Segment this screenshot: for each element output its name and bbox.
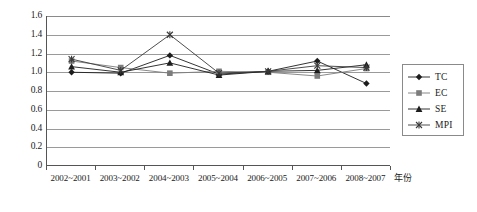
y-axis-tick-label: 0.8	[31, 86, 42, 96]
y-axis-tick-label: 0	[37, 161, 42, 171]
x-axis-tick-label: 2005~2004	[198, 172, 238, 184]
x-axis-tick-marks	[46, 166, 390, 170]
legend-marker-square-icon	[406, 86, 432, 100]
data-point-diamond	[167, 52, 173, 58]
legend-marker-cross-icon	[406, 118, 432, 132]
y-axis-tick-label: 0.4	[31, 124, 42, 134]
y-axis-tick-label: 1.6	[31, 11, 42, 21]
x-axis-tick	[292, 166, 293, 170]
x-axis-tick	[243, 166, 244, 170]
legend-item-se[interactable]: SE	[406, 101, 460, 117]
x-axis-tick	[341, 166, 342, 170]
legend-marker-triangle-icon	[406, 102, 432, 116]
x-axis-tick	[390, 166, 391, 170]
x-axis-tick-label: 2004~2003	[149, 172, 189, 184]
legend-item-mpi[interactable]: MPI	[406, 117, 460, 133]
legend-item-tc[interactable]: TC	[406, 69, 460, 85]
y-axis-tick-labels: 00.20.40.60.81.01.21.41.6	[0, 0, 46, 180]
data-point-cross	[118, 67, 124, 74]
legend-marker-diamond-icon	[406, 70, 432, 84]
data-point-square	[314, 73, 320, 79]
y-axis-tick-label: 0.6	[31, 105, 42, 115]
data-point-diamond	[363, 80, 369, 86]
x-axis-title: 年份	[394, 172, 412, 184]
y-axis-tick-label: 1.0	[31, 68, 42, 78]
data-point-diamond	[416, 74, 422, 80]
x-axis-tick-label: 2007~2006	[296, 172, 336, 184]
legend-label: EC	[432, 86, 448, 100]
data-point-square	[167, 70, 173, 76]
legend-item-ec[interactable]: EC	[406, 85, 460, 101]
data-point-diamond	[68, 69, 74, 75]
data-point-cross	[167, 31, 173, 38]
x-axis-tick	[193, 166, 194, 170]
chart-figure: 00.20.40.60.81.01.21.41.6 2002~20012003~…	[0, 0, 477, 212]
series-layer	[47, 16, 391, 166]
data-point-triangle	[68, 63, 75, 69]
plot-area	[46, 16, 390, 166]
y-axis-tick-label: 0.2	[31, 143, 42, 153]
y-axis-tick-label: 1.4	[31, 30, 42, 40]
x-axis-tick-label: 2008~2007	[345, 172, 385, 184]
legend-label: SE	[432, 102, 447, 116]
x-axis-tick-label: 2002~2001	[51, 172, 91, 184]
x-axis-tick-label: 2003~2002	[100, 172, 140, 184]
data-point-triangle	[166, 59, 173, 65]
series-line	[72, 35, 367, 73]
x-axis-tick-label: 2006~2005	[247, 172, 287, 184]
x-axis-tick	[144, 166, 145, 170]
y-axis-tick-label: 1.2	[31, 49, 42, 59]
x-axis-tick	[95, 166, 96, 170]
data-point-square	[416, 90, 422, 96]
legend-label: MPI	[432, 118, 453, 132]
chart-legend: TCECSEMPI	[402, 64, 464, 136]
legend-label: TC	[432, 70, 448, 84]
x-axis-tick	[46, 166, 47, 170]
